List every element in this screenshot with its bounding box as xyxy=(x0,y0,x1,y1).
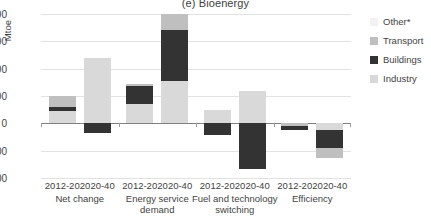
x-axis-tick xyxy=(274,123,275,127)
x-axis-labels: 2012-202020-40Net change2012-202020-40En… xyxy=(41,180,351,217)
legend-label: Other* xyxy=(383,16,410,27)
gridline xyxy=(41,178,351,179)
x-axis-tick xyxy=(41,123,42,127)
bar-segment[interactable] xyxy=(49,107,76,111)
legend-label: Industry xyxy=(383,73,417,84)
chart-legend: Other*TransportBuildingsIndustry xyxy=(370,12,431,88)
x-axis-period-label: 2012-20 xyxy=(200,180,235,191)
legend-label: Transport xyxy=(383,35,423,46)
bar-column[interactable] xyxy=(316,14,343,178)
x-axis-group-label: Efficiency xyxy=(266,194,358,205)
bar-segment[interactable] xyxy=(126,84,153,86)
bar-column[interactable] xyxy=(204,14,231,178)
bar-segment[interactable] xyxy=(316,130,343,147)
bar-column[interactable] xyxy=(161,14,188,178)
x-axis-period-label: 2020-40 xyxy=(312,180,347,191)
bar-segment[interactable] xyxy=(239,91,266,124)
bar-segment[interactable] xyxy=(204,123,231,134)
bar-series-group xyxy=(41,14,351,178)
x-axis-period-label: 2020-40 xyxy=(80,180,115,191)
chart-container: (e) Bioenergy Mtoe 4003002001000-100-200… xyxy=(0,0,431,217)
bar-segment[interactable] xyxy=(126,86,153,104)
bar-segment[interactable] xyxy=(204,110,231,124)
bar-segment[interactable] xyxy=(161,14,188,30)
bar-segment[interactable] xyxy=(84,58,111,124)
legend-item[interactable]: Industry xyxy=(370,69,431,88)
x-axis-period-label: 2020-40 xyxy=(235,180,270,191)
bar-column[interactable] xyxy=(126,14,153,178)
legend-swatch-icon xyxy=(370,37,378,45)
x-axis-period-label: 2012-20 xyxy=(277,180,312,191)
bar-column[interactable] xyxy=(239,14,266,178)
bar-column[interactable] xyxy=(84,14,111,178)
x-axis-period-label: 2012-20 xyxy=(122,180,157,191)
plot-area: 4003002001000-100-200 xyxy=(41,14,351,178)
bar-column[interactable] xyxy=(281,14,308,178)
y-axis-tick-label: 0 xyxy=(0,118,7,129)
x-axis-tick xyxy=(119,123,120,127)
y-axis-tick-label: -100 xyxy=(0,145,7,156)
y-axis-tick-label: -200 xyxy=(0,173,7,184)
legend-swatch-icon xyxy=(370,56,378,64)
x-axis-tick xyxy=(350,123,351,127)
x-axis-period-label: 2020-40 xyxy=(157,180,192,191)
legend-swatch-icon xyxy=(370,75,378,83)
legend-swatch-icon xyxy=(370,18,378,26)
x-axis-period-label: 2012-20 xyxy=(45,180,80,191)
x-axis-tick xyxy=(196,123,197,127)
chart-title: (e) Bioenergy xyxy=(0,0,431,9)
bar-segment[interactable] xyxy=(316,123,343,130)
bar-segment[interactable] xyxy=(239,123,266,169)
y-axis-tick-label: 300 xyxy=(0,36,7,47)
legend-item[interactable]: Transport xyxy=(370,31,431,50)
y-axis-tick-label: 400 xyxy=(0,9,7,20)
bar-column[interactable] xyxy=(49,14,76,178)
y-axis-tick-label: 200 xyxy=(0,63,7,74)
legend-label: Buildings xyxy=(383,54,422,65)
legend-item[interactable]: Buildings xyxy=(370,50,431,69)
bar-segment[interactable] xyxy=(161,81,188,123)
bar-segment[interactable] xyxy=(84,123,111,133)
legend-item[interactable]: Other* xyxy=(370,12,431,31)
bar-segment[interactable] xyxy=(49,111,76,123)
bar-segment[interactable] xyxy=(316,148,343,158)
y-axis-tick-label: 100 xyxy=(0,91,7,102)
bar-segment[interactable] xyxy=(126,104,153,123)
bar-segment[interactable] xyxy=(281,126,308,130)
bar-segment[interactable] xyxy=(161,30,188,81)
bar-segment[interactable] xyxy=(49,96,76,107)
